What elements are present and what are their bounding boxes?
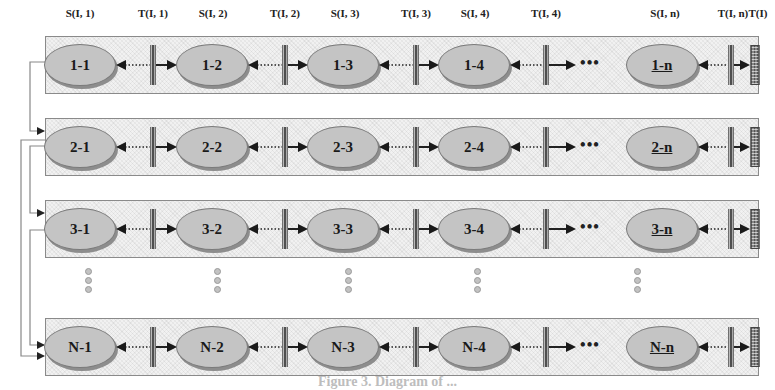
dotted-back-arrow-icon <box>116 341 152 353</box>
horizontal-ellipsis: ••• <box>580 218 600 236</box>
dotted-back-arrow-icon <box>510 141 545 153</box>
stage-node-1-n: 1-n <box>626 44 698 86</box>
dotted-back-arrow-icon <box>379 59 415 71</box>
dotted-back-arrow-icon <box>248 141 284 153</box>
stage-node-2-4: 2-4 <box>438 126 510 168</box>
dotted-back-arrow-icon <box>698 141 730 153</box>
stage-node-1-2: 1-2 <box>176 44 248 86</box>
vertical-ellipsis-col-n <box>634 268 642 295</box>
stage-node-label: 2-4 <box>464 139 484 156</box>
stage-node-label: N-1 <box>68 339 91 356</box>
stage-node-label: 3-1 <box>70 221 90 238</box>
dotted-back-arrow-icon <box>379 341 415 353</box>
stage-node-n-4: N-4 <box>438 326 510 368</box>
stage-node-n-3: N-3 <box>307 326 379 368</box>
stage-node-n-n: N-n <box>626 326 698 368</box>
dotted-back-arrow-icon <box>248 223 284 235</box>
stage-node-n-1: N-1 <box>44 326 116 368</box>
row-output-register-t-i <box>751 327 760 367</box>
stage-node-1-1: 1-1 <box>44 44 116 86</box>
stage-node-label: 2-n <box>652 139 673 156</box>
stage-node-label: 1-4 <box>464 57 484 74</box>
dotted-back-arrow-icon <box>698 59 730 71</box>
row-output-register-t-i <box>751 209 760 249</box>
stage-node-3-2: 3-2 <box>176 208 248 250</box>
stage-node-2-1: 2-1 <box>44 126 116 168</box>
stage-node-label: 1-1 <box>70 57 90 74</box>
stage-node-2-2: 2-2 <box>176 126 248 168</box>
stage-node-2-3: 2-3 <box>307 126 379 168</box>
vertical-ellipsis-col-1 <box>85 268 93 295</box>
forward-arrow-icon <box>549 341 578 353</box>
stage-node-label: N-4 <box>462 339 485 356</box>
forward-arrow-icon <box>734 341 752 353</box>
figure-caption: Figure 3. Diagram of ... <box>0 374 775 390</box>
forward-arrow-icon <box>549 223 578 235</box>
stage-node-label: 3-4 <box>464 221 484 238</box>
stage-node-1-3: 1-3 <box>307 44 379 86</box>
stage-node-3-3: 3-3 <box>307 208 379 250</box>
dotted-back-arrow-icon <box>698 223 730 235</box>
stage-node-label: 3-3 <box>333 221 353 238</box>
vertical-ellipsis-col-4 <box>474 268 482 295</box>
stage-node-label: 3-n <box>652 221 673 238</box>
dotted-back-arrow-icon <box>510 341 545 353</box>
stage-node-3-n: 3-n <box>626 208 698 250</box>
stage-node-label: 2-2 <box>202 139 222 156</box>
stage-node-label: 1-3 <box>333 57 353 74</box>
stage-node-label: 1-n <box>652 57 673 74</box>
dotted-back-arrow-icon <box>116 223 152 235</box>
dotted-back-arrow-icon <box>379 223 415 235</box>
horizontal-ellipsis: ••• <box>580 136 600 154</box>
row-output-register-t-i <box>751 127 760 167</box>
horizontal-ellipsis: ••• <box>580 336 600 354</box>
stage-node-label: N-2 <box>200 339 223 356</box>
forward-arrow-icon <box>549 59 578 71</box>
stage-node-3-1: 3-1 <box>44 208 116 250</box>
stage-node-3-4: 3-4 <box>438 208 510 250</box>
dotted-back-arrow-icon <box>379 141 415 153</box>
stage-node-label: 2-1 <box>70 139 90 156</box>
stage-node-label: 1-2 <box>202 57 222 74</box>
stage-node-label: N-n <box>650 339 674 356</box>
stage-node-n-2: N-2 <box>176 326 248 368</box>
row-output-register-t-i <box>751 45 760 85</box>
dotted-back-arrow-icon <box>510 223 545 235</box>
forward-arrow-icon <box>549 141 578 153</box>
stage-node-label: 3-2 <box>202 221 222 238</box>
vertical-ellipsis-col-2 <box>214 268 222 295</box>
stage-node-2-n: 2-n <box>626 126 698 168</box>
dotted-back-arrow-icon <box>248 341 284 353</box>
stage-node-1-4: 1-4 <box>438 44 510 86</box>
stage-node-label: 2-3 <box>333 139 353 156</box>
dotted-back-arrow-icon <box>116 59 152 71</box>
dotted-back-arrow-icon <box>248 59 284 71</box>
horizontal-ellipsis: ••• <box>580 54 600 72</box>
forward-arrow-icon <box>734 59 752 71</box>
forward-arrow-icon <box>734 141 752 153</box>
vertical-ellipsis-col-3 <box>345 268 353 295</box>
dotted-back-arrow-icon <box>116 141 152 153</box>
stage-node-label: N-3 <box>331 339 354 356</box>
forward-arrow-icon <box>734 223 752 235</box>
dotted-back-arrow-icon <box>510 59 545 71</box>
dotted-back-arrow-icon <box>698 341 730 353</box>
